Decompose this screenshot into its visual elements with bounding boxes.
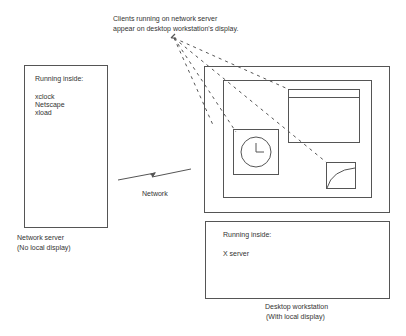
network-server-heading: Running inside:: [35, 75, 83, 83]
network-server-sublabel: (No local display): [17, 244, 71, 252]
xclock-window: [233, 129, 279, 175]
pointer-origin-icon: [171, 34, 176, 38]
workstation-heading: Running inside:: [223, 231, 271, 239]
process-x-server: X server: [223, 250, 249, 258]
lightning-bolt-icon: [118, 169, 191, 180]
workstation-label: Desktop workstation: [265, 303, 328, 311]
caption-line-1: Clients running on network server: [113, 15, 217, 23]
caption-line-2: appear on desktop workstation's display.: [113, 25, 238, 33]
process-xload: xload: [35, 109, 52, 117]
network-server-box: [24, 65, 108, 228]
process-netscape: Netscape: [35, 101, 65, 109]
netscape-titlebar-divider: [288, 97, 360, 98]
network-label: Network: [142, 190, 168, 198]
process-xclock: xclock: [35, 93, 54, 101]
workstation-sublabel: (With local display): [266, 313, 325, 321]
network-server-label: Network server: [17, 234, 64, 242]
xload-window: [326, 162, 356, 189]
